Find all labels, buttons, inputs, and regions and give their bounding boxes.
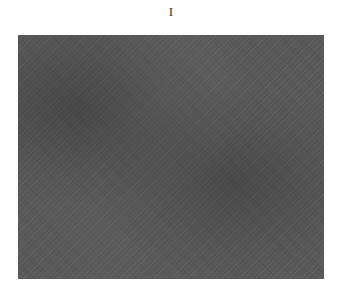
figure-texture-plate — [18, 35, 324, 279]
figure-label: I — [0, 4, 342, 20]
